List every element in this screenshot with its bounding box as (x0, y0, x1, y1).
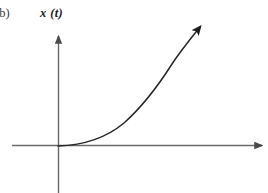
exponential-growth-curve (58, 27, 200, 146)
plot-svg (0, 0, 268, 193)
figure-container: (b) x (t) (0, 0, 268, 193)
